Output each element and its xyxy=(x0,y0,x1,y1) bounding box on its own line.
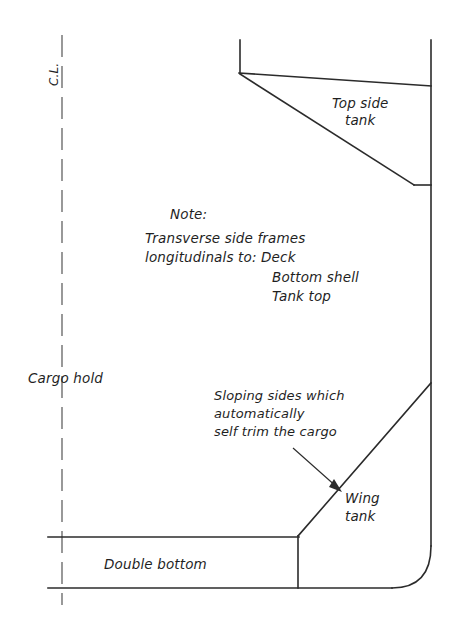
callout-leader-line xyxy=(293,448,338,488)
note-line-2: longitudinals to: Deck xyxy=(145,249,297,265)
note-heading: Note: xyxy=(170,206,207,222)
wing-tank-label-line1: Wing xyxy=(345,490,380,506)
midship-section-drawing: C.L. Top side tank Note: Transverse side… xyxy=(0,0,451,618)
ship-section-diagram: C.L. Top side tank Note: Transverse side… xyxy=(0,0,451,618)
bilge-radius-curve xyxy=(392,546,431,588)
note-line-1: Transverse side frames xyxy=(145,230,305,246)
callout-line-2: automatically xyxy=(214,406,305,421)
centerline-label: C.L. xyxy=(47,63,61,86)
note-line-3: Bottom shell xyxy=(272,269,359,285)
topside-tank-label-line1: Top side xyxy=(332,95,389,111)
topside-tank-label-line2: tank xyxy=(345,112,377,128)
callout-line-1: Sloping sides which xyxy=(214,388,345,403)
cargo-hold-label: Cargo hold xyxy=(28,370,103,386)
wing-tank-label-line2: tank xyxy=(345,508,377,524)
double-bottom-label: Double bottom xyxy=(104,556,207,572)
deck-plating-line xyxy=(239,73,431,86)
topside-tank-slope-line xyxy=(240,74,414,185)
note-line-4: Tank top xyxy=(272,288,331,304)
callout-line-3: self trim the cargo xyxy=(214,424,337,439)
